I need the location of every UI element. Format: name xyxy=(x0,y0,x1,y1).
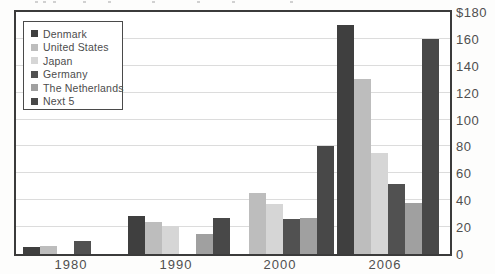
legend-label: Denmark xyxy=(43,28,87,40)
remnant-speck xyxy=(53,1,56,3)
japan-swatch-icon xyxy=(31,57,38,64)
bar-2006-germany xyxy=(388,184,405,254)
bar-2006-next-5 xyxy=(422,39,439,254)
legend-item-united-states: United States xyxy=(31,41,122,55)
remnant-speck xyxy=(108,1,111,3)
the-netherlands-swatch-icon xyxy=(31,84,38,91)
bar-2000-the-netherlands xyxy=(300,218,317,254)
bar-2006-united-states xyxy=(354,79,371,254)
y-tick-label-140: 140 xyxy=(456,59,479,74)
germany-swatch-icon xyxy=(31,71,38,78)
remnant-speck xyxy=(43,1,46,3)
legend-label: Germany xyxy=(43,68,88,80)
x-axis-labels: 1980 1990 2000 2006 xyxy=(0,257,495,274)
y-tick-label-20: 20 xyxy=(456,220,471,235)
bar-2000-germany xyxy=(283,219,300,254)
bar-2006-the-netherlands xyxy=(405,203,422,254)
bar-1990-united-states xyxy=(145,222,162,254)
bar-2000-united-states xyxy=(249,193,266,254)
legend-item-next-5: Next 5 xyxy=(31,95,122,109)
next-5-swatch-icon xyxy=(31,98,38,105)
gridline-100 xyxy=(16,119,450,120)
bar-2006-japan xyxy=(371,153,388,254)
legend-item-japan: Japan xyxy=(31,54,122,68)
bar-1990-next-5 xyxy=(213,218,230,254)
remnant-speck xyxy=(197,1,200,3)
bar-1990-denmark xyxy=(128,216,145,254)
bar-1980-germany xyxy=(74,241,91,254)
remnant-speck xyxy=(290,1,293,3)
legend-label: Japan xyxy=(43,55,73,67)
denmark-swatch-icon xyxy=(31,30,38,37)
x-tick-label-2006: 2006 xyxy=(369,257,402,272)
united-states-swatch-icon xyxy=(31,44,38,51)
bar-2006-denmark xyxy=(337,25,354,254)
y-tick-label-120: 120 xyxy=(456,86,479,101)
x-tick-label-1990: 1990 xyxy=(160,257,193,272)
legend-item-germany: Germany xyxy=(31,68,122,82)
legend-label: Next 5 xyxy=(43,95,75,107)
y-tick-label-100: 100 xyxy=(456,113,479,128)
gridline-80 xyxy=(16,145,450,146)
legend-item-the-netherlands: The Netherlands xyxy=(31,81,122,95)
y-axis-labels: $180160140120100806040200 xyxy=(456,0,495,274)
remnant-speck xyxy=(232,1,235,3)
remnant-speck xyxy=(35,1,38,3)
remnant-speck xyxy=(152,1,155,3)
y-tick-label-40: 40 xyxy=(456,193,471,208)
y-tick-label-80: 80 xyxy=(456,139,471,154)
bar-2000-japan xyxy=(266,204,283,254)
chart-legend: Denmark United States Japan Germany The … xyxy=(23,21,123,110)
y-tick-label-180: $180 xyxy=(456,5,487,20)
bar-1990-japan xyxy=(162,226,179,254)
bar-1980-united-states xyxy=(40,246,57,254)
legend-item-denmark: Denmark xyxy=(31,27,122,41)
remnant-speck xyxy=(83,1,86,3)
bar-1980-denmark xyxy=(23,247,40,254)
bar-chart-figure: Denmark United States Japan Germany The … xyxy=(0,0,495,274)
legend-label: The Netherlands xyxy=(43,82,124,94)
bar-1990-the-netherlands xyxy=(196,234,213,254)
x-tick-label-2000: 2000 xyxy=(264,257,297,272)
y-tick-label-160: 160 xyxy=(456,32,479,47)
legend-label: United States xyxy=(43,41,109,53)
bar-2000-next-5 xyxy=(317,146,334,254)
y-tick-label-60: 60 xyxy=(456,166,471,181)
x-tick-label-1980: 1980 xyxy=(55,257,88,272)
